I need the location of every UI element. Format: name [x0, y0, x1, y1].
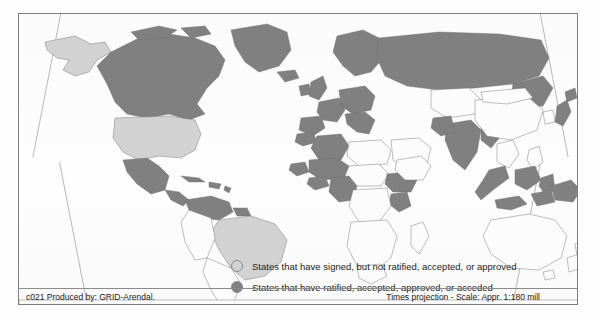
region-japan-north	[565, 88, 577, 102]
region-ireland	[299, 84, 311, 96]
region-papua-new-guinea	[551, 180, 578, 202]
region-southeast-asia	[497, 140, 519, 168]
region-mexico	[123, 158, 169, 194]
map-poster: States that have signed, but not ratifie…	[0, 0, 600, 320]
region-senegal-guinea	[289, 162, 309, 176]
legend-item-signed: States that have signed, but not ratifie…	[231, 260, 517, 272]
region-central-america	[165, 190, 189, 206]
region-iceland	[277, 70, 299, 82]
projection-scale-note: Times projection - Scale: Appr. 1:180 mi…	[386, 292, 540, 303]
map-frame: States that have signed, but not ratifie…	[18, 13, 578, 305]
legend-label-signed: States that have signed, but not ratifie…	[252, 261, 517, 272]
region-madagascar	[411, 222, 429, 254]
region-canada-arctic-2	[181, 26, 211, 38]
region-tasmania	[543, 270, 555, 280]
region-java	[495, 196, 527, 210]
region-korea	[543, 110, 555, 124]
region-italy-balkans	[345, 112, 375, 134]
region-central-asia	[431, 88, 481, 118]
region-japan	[555, 100, 571, 126]
legend-swatch-signed	[231, 260, 243, 272]
region-algeria-tunisia	[311, 134, 349, 160]
region-pakistan	[431, 116, 455, 136]
region-united-kingdom	[309, 76, 327, 100]
producer-credit: c021 Produced by: GRID-Arendal.	[26, 292, 155, 303]
region-group-north-america	[45, 26, 231, 206]
region-peru-bolivia	[181, 210, 215, 260]
region-guyanas	[233, 208, 251, 216]
region-lesser-antilles	[224, 186, 231, 193]
region-cuba	[181, 176, 205, 182]
region-united-states	[113, 116, 201, 160]
footer-divider	[18, 288, 578, 289]
region-group-asia	[391, 88, 578, 210]
region-new-zealand-north	[575, 240, 578, 256]
legend-label-ratified: States that have ratified, accepted, app…	[252, 282, 493, 293]
region-new-zealand-south	[567, 254, 578, 272]
region-norway-sweden-finland	[333, 30, 383, 76]
region-malaysia-sumatra	[475, 166, 509, 200]
region-borneo	[515, 166, 541, 190]
region-central-africa	[349, 188, 391, 222]
region-hispaniola	[209, 182, 221, 189]
region-greenland	[231, 24, 291, 72]
region-ghana-coast	[307, 176, 329, 190]
region-kenya	[389, 192, 411, 212]
legend-swatch-ratified	[231, 281, 243, 293]
region-new-guinea-west	[531, 190, 555, 206]
region-canada	[97, 34, 225, 120]
region-libya-egypt	[347, 140, 391, 166]
